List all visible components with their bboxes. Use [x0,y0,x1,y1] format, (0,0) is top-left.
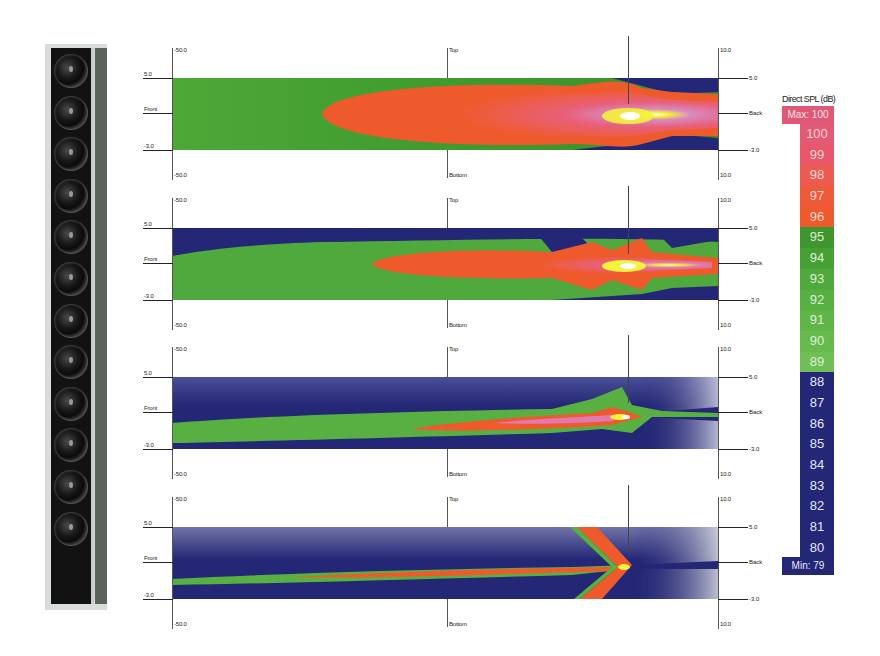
left-axis-line [172,497,173,629]
x-right-label-top: 10.0 [720,197,731,203]
spl-heatmap [172,78,718,150]
x-left-label-top: -50.0 [174,346,187,352]
x-right-label-bottom: 10.0 [720,172,731,178]
legend-entry: 85 [800,434,834,455]
back-label: Back [749,559,762,565]
y-bottom-label-right: -3.0 [749,446,759,452]
y-bottom-label-left: -3.0 [144,592,154,598]
front-label: Front [144,555,157,561]
speaker-driver [54,262,88,296]
legend-entry: 94 [800,248,834,269]
x-left-label-top: -50.0 [174,496,187,502]
x-right-label-bottom: 10.0 [720,471,731,477]
x-left-label-top: -50.0 [174,47,187,53]
speaker-driver [54,54,88,88]
y-tick-top-right [718,228,748,229]
y-tick-mid-left [143,113,173,114]
top-label: Top [449,47,458,53]
y-tick-bottom-right [718,449,748,450]
speaker-driver [54,179,88,213]
y-bottom-label-left: -3.0 [144,442,154,448]
y-bottom-label-right: -3.0 [749,147,759,153]
legend-entry: 96 [800,207,834,228]
left-axis-line [172,48,173,180]
x-left-label-bottom: -50.0 [174,621,187,627]
bottom-label: Bottom [449,621,467,627]
speaker-driver [54,428,88,462]
legend-entry: 90 [800,331,834,352]
right-axis-line [718,48,719,180]
back-label: Back [749,409,762,415]
x-right-label-top: 10.0 [720,346,731,352]
y-bottom-label-right: -3.0 [749,596,759,602]
y-bottom-label-left: -3.0 [144,143,154,149]
top-label: Top [449,496,458,502]
y-tick-top-right [718,78,748,79]
y-tick-mid-left [143,263,173,264]
y-tick-mid-right [718,412,748,413]
legend-entry: 87 [800,393,834,414]
bottom-label: Bottom [449,471,467,477]
legend-entry: 89 [800,352,834,373]
right-axis-line [718,497,719,629]
source-position-line [628,485,629,553]
x-left-label-bottom: -50.0 [174,322,187,328]
legend-entry: 81 [800,517,834,538]
legend-entry: 98 [800,165,834,186]
x-left-label-bottom: -50.0 [174,471,187,477]
y-tick-bottom-right [718,300,748,301]
y-tick-mid-right [718,113,748,114]
front-label: Front [144,256,157,262]
legend-entry: 84 [800,455,834,476]
y-tick-top-right [718,377,748,378]
x-left-label-bottom: -50.0 [174,172,187,178]
legend-title: Direct SPL (dB) [782,94,835,104]
x-right-label-top: 10.0 [720,47,731,53]
legend-colorbar: 1009998979695949392919089888786858483828… [800,124,834,558]
y-tick-mid-left [143,562,173,563]
y-top-label-left: 5.0 [144,370,152,376]
y-tick-mid-right [718,263,748,264]
back-label: Back [749,260,762,266]
spl-heatmap [172,377,718,449]
y-tick-bottom-left [143,150,173,151]
legend-entry: 82 [800,496,834,517]
top-label: Top [449,346,458,352]
legend-entry: 99 [800,145,834,166]
speaker-driver [54,304,88,338]
bottom-label: Bottom [449,322,467,328]
top-label: Top [449,197,458,203]
front-label: Front [144,405,157,411]
bottom-axis-line [447,150,448,178]
front-label: Front [144,106,157,112]
left-axis-line [172,347,173,479]
source-position-line [628,36,629,104]
top-axis-line [447,347,448,377]
speaker-side-panel [95,48,107,604]
y-top-label-left: 5.0 [144,221,152,227]
y-top-label-right: 5.0 [749,225,757,231]
x-left-label-top: -50.0 [174,197,187,203]
y-tick-top-left [143,527,173,528]
y-top-label-left: 5.0 [144,71,152,77]
source-position-line [628,335,629,403]
right-axis-line [718,347,719,479]
y-tick-bottom-left [143,300,173,301]
y-tick-top-left [143,377,173,378]
y-tick-bottom-right [718,150,748,151]
legend-entry: 80 [800,538,834,559]
x-right-label-top: 10.0 [720,496,731,502]
y-top-label-right: 5.0 [749,374,757,380]
speaker-driver [54,137,88,171]
x-right-label-bottom: 10.0 [720,621,731,627]
legend-min-label: Min: 79 [782,557,834,575]
speaker-cabinet [51,48,94,604]
speaker-driver [54,512,88,546]
x-right-label-bottom: 10.0 [720,322,731,328]
y-tick-top-left [143,78,173,79]
speaker-driver [54,345,88,379]
legend-entry: 91 [800,310,834,331]
bottom-axis-line [447,599,448,627]
back-label: Back [749,110,762,116]
y-top-label-left: 5.0 [144,520,152,526]
